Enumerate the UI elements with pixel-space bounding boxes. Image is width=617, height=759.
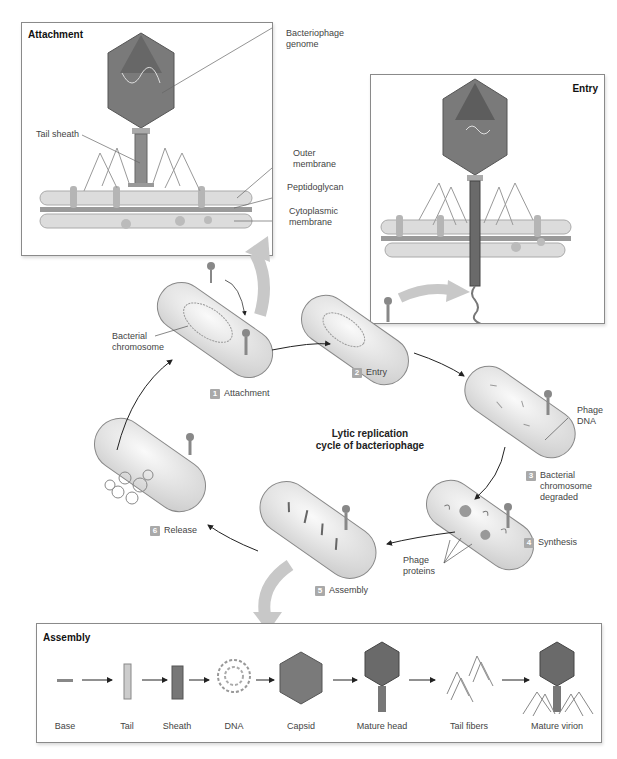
entry-panel: Entry (370, 74, 605, 324)
step-label: Attachment (224, 388, 270, 399)
label-cytoplasmic-membrane: Cytoplasmic membrane (289, 206, 338, 228)
step-label: Release (164, 525, 197, 536)
label-outer-membrane: Outer membrane (293, 148, 336, 170)
label-bacteriophage-genome: Bacteriophage genome (286, 28, 344, 50)
step-2-entry: 2 Entry (352, 367, 387, 378)
step-4-synthesis: 4 Synthesis (524, 537, 577, 548)
assembly-part-mature-head: Mature head (347, 721, 417, 731)
label-peptidoglycan: Peptidoglycan (287, 182, 344, 193)
assembly-part-dna: DNA (199, 721, 269, 731)
step-badge: 1 (210, 389, 220, 399)
assembly-part-mature-virion: Mature virion (522, 721, 592, 731)
label-phage-dna: Phage DNA (577, 405, 603, 427)
label-phage-proteins: Phage proteins (403, 555, 435, 577)
label-bacterial-chromosome: Bacterial chromosome (112, 331, 164, 353)
step-badge: 4 (524, 538, 534, 548)
assembly-part-base: Base (30, 721, 100, 731)
step-1-attachment: 1 Attachment (210, 388, 270, 399)
step-label: Bacterial chromosome degraded (540, 470, 592, 503)
step-3-chromosome-degraded: 3 Bacterial chromosome degraded (526, 470, 592, 503)
step-6-release: 6 Release (150, 525, 197, 536)
step-badge: 6 (150, 526, 160, 536)
assembly-part-capsid: Capsid (266, 721, 336, 731)
step-5-assembly: 5 Assembly (315, 585, 368, 596)
label-tail-sheath: Tail sheath (36, 129, 79, 140)
entry-illustration (371, 75, 604, 323)
assembly-part-tail-fibers: Tail fibers (434, 721, 504, 731)
cycle-title: Lytic replication cycle of bacteriophage (305, 428, 435, 452)
step-badge: 3 (526, 471, 536, 481)
step-label: Assembly (329, 585, 368, 596)
step-label: Entry (366, 367, 387, 378)
attachment-panel: Attachment Tail sheath (21, 22, 273, 256)
step-badge: 2 (352, 368, 362, 378)
step-label: Synthesis (538, 537, 577, 548)
assembly-panel: Assembly (36, 623, 602, 743)
step-badge: 5 (315, 586, 325, 596)
